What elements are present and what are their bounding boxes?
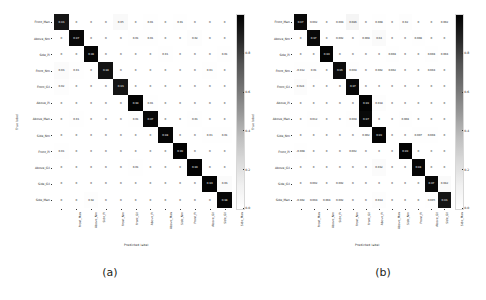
y-tick-label: Side_Nm [37, 134, 50, 138]
y-tick-label: Side_Gil [38, 182, 50, 186]
y-tick-label: Front_Pi [278, 150, 290, 154]
heatmap-cell: 0 [173, 46, 188, 62]
y-tick-label: Side_Man [276, 198, 290, 202]
y-tick-label: Front_Pi [38, 150, 50, 154]
heatmap-cell: 0.008 [346, 111, 359, 127]
y-tick-label: Front_Gil [277, 85, 290, 89]
panel-b: True label Front_ManAbove_NmSide_PiFront… [243, 0, 486, 300]
heatmap-cell: 0 [320, 176, 333, 192]
heatmap-cell: 0 [158, 95, 173, 111]
heatmap-cell: 0.012 [307, 111, 320, 127]
heatmap-cell: 0 [425, 14, 438, 30]
heatmap-cell: 0 [438, 127, 451, 143]
heatmap-cell: 0.008 [359, 30, 372, 46]
heatmap-cell: 0.01 [54, 143, 69, 159]
heatmap-cell: 0.01 [202, 62, 217, 78]
heatmap-cell: -0.002 [294, 192, 307, 208]
heatmap-cell: 0 [386, 14, 399, 30]
heatmap-cell: 0 [386, 127, 399, 143]
heatmap-cell: 0 [113, 127, 128, 143]
y-tick-label: Front_Man [35, 20, 50, 24]
heatmap-cell: 0 [113, 46, 128, 62]
heatmap-cell: 0 [386, 143, 399, 159]
x-tick-label: Above_Pi [381, 212, 385, 225]
heatmap-cell: 0 [98, 143, 113, 159]
heatmap-cell: 0 [69, 159, 84, 175]
heatmap-cell: 0.98 [158, 127, 173, 143]
heatmap-cell: 0 [84, 30, 99, 46]
heatmap-cell: 0 [386, 95, 399, 111]
heatmap-cell: 0 [173, 159, 188, 175]
heatmap-cell: 0.008 [399, 111, 412, 127]
x-tick-label: Above_Man [169, 212, 173, 229]
heatmap-cell: 0 [187, 62, 202, 78]
heatmap-cell: 0 [128, 46, 143, 62]
heatmap-cell: 0 [113, 111, 128, 127]
heatmap-cell: 0 [128, 176, 143, 192]
heatmap-cell: 0 [425, 143, 438, 159]
heatmap-cell: 0 [173, 62, 188, 78]
heatmap-cell: 0.002 [438, 14, 451, 30]
heatmap-cell: 0 [202, 143, 217, 159]
heatmap-cell: 0 [98, 79, 113, 95]
heatmap-cell: 0 [346, 30, 359, 46]
heatmap-cell: 0.004 [333, 14, 346, 30]
heatmap-cell: 0.004 [320, 192, 333, 208]
heatmap-cell: 0 [54, 46, 69, 62]
x-tick-label: Side_Nm [180, 212, 184, 225]
panel-b-x-tick-labels: Front_ManAbove_NmSide_PiFront_NmFront_Gi… [294, 209, 451, 243]
heatmap-cell: 0 [307, 46, 320, 62]
heatmap-cell: 0 [438, 111, 451, 127]
heatmap-cell: 0 [412, 62, 425, 78]
heatmap-cell: 0 [143, 62, 158, 78]
x-tick-label: Front_Man [78, 212, 82, 227]
heatmap-cell: 0.002 [307, 14, 320, 30]
heatmap-cell: 0.02 [187, 30, 202, 46]
heatmap-cell: 0 [128, 62, 143, 78]
heatmap-cell: 0 [346, 127, 359, 143]
panel-b-heatmap: 0.970.00200.0040.08600.00800.02000.00200… [294, 14, 451, 208]
heatmap-cell: 0.97 [359, 111, 372, 127]
heatmap-cell: 0 [84, 95, 99, 111]
heatmap-cell: 0.01 [202, 127, 217, 143]
heatmap-cell: 0.005 [425, 192, 438, 208]
heatmap-cell: 0 [158, 159, 173, 175]
heatmap-cell: 0 [412, 79, 425, 95]
heatmap-cell: 0.002 [333, 192, 346, 208]
heatmap-cell: 0 [372, 46, 385, 62]
heatmap-cell: 0 [399, 192, 412, 208]
heatmap-cell: 0 [438, 159, 451, 175]
heatmap-cell: 0.008 [425, 46, 438, 62]
heatmap-cell: 0 [320, 127, 333, 143]
heatmap-cell: 0.01 [69, 62, 84, 78]
x-tick-label: Front_Nm [355, 212, 359, 226]
heatmap-cell: 0.008 [425, 127, 438, 143]
heatmap-cell: 0.01 [128, 30, 143, 46]
heatmap-cell: 0 [158, 30, 173, 46]
heatmap-cell: 0.93 [113, 79, 128, 95]
heatmap-cell: 0.05 [113, 14, 128, 30]
heatmap-cell: 0 [202, 79, 217, 95]
heatmap-cell: 0 [217, 79, 232, 95]
panel-a-x-tick-labels: Front_ManAbove_NmSide_PiFront_NmFront_Gi… [54, 209, 232, 243]
heatmap-cell: 0.99 [359, 95, 372, 111]
heatmap-cell: 0 [98, 192, 113, 208]
heatmap-cell: 0 [386, 176, 399, 192]
heatmap-cell: 0 [128, 79, 143, 95]
heatmap-cell: 0 [113, 192, 128, 208]
heatmap-cell: 0.98 [412, 159, 425, 175]
heatmap-cell: 0 [98, 176, 113, 192]
heatmap-cell: 0 [202, 46, 217, 62]
panel-b-x-axis-title: Predicted label [355, 243, 380, 247]
heatmap-cell: 0 [320, 62, 333, 78]
heatmap-cell: 0 [399, 79, 412, 95]
y-tick-label: Side_Pi [279, 53, 289, 57]
heatmap-cell: 0.007 [412, 127, 425, 143]
heatmap-cell: 0.002 [333, 30, 346, 46]
heatmap-cell: 0 [320, 79, 333, 95]
heatmap-cell: 0 [202, 30, 217, 46]
heatmap-cell: 0 [412, 143, 425, 159]
heatmap-cell: 0 [372, 79, 385, 95]
heatmap-cell: 0 [113, 159, 128, 175]
x-tick-label: Above_Gil [434, 212, 438, 227]
